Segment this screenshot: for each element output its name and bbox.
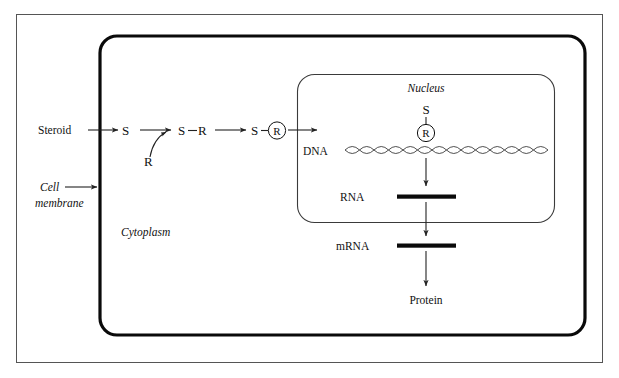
label-dna: DNA xyxy=(303,145,329,157)
symbol-s-bound: S xyxy=(178,123,185,138)
label-nucleus: Nucleus xyxy=(406,82,445,94)
symbol-r-circled: R xyxy=(273,125,281,137)
label-steroid: Steroid xyxy=(38,124,71,136)
label-mrna: mRNA xyxy=(336,240,370,252)
diagram-page: Steroid S R S R S R Cell membrane Cytopl… xyxy=(0,0,619,378)
symbol-r-free: R xyxy=(144,154,153,169)
label-cell-membrane-line1: Cell xyxy=(40,181,59,193)
outer-frame xyxy=(17,15,603,363)
nucleus-boundary xyxy=(298,75,555,223)
symbol-s-free: S xyxy=(122,123,129,138)
symbol-r-on-dna: R xyxy=(422,127,430,139)
symbol-s-on-dna: S xyxy=(422,102,429,117)
steroid-pathway-diagram: Steroid S R S R S R Cell membrane Cytopl… xyxy=(0,0,619,378)
cell-membrane-boundary xyxy=(100,36,585,335)
label-cytoplasm: Cytoplasm xyxy=(121,226,170,239)
label-protein: Protein xyxy=(409,294,442,306)
label-rna: RNA xyxy=(340,191,365,203)
mrna-bar xyxy=(397,244,456,248)
symbol-s-complex: S xyxy=(251,123,258,138)
label-cell-membrane-line2: membrane xyxy=(35,197,84,209)
rna-bar xyxy=(397,195,456,199)
symbol-r-bound: R xyxy=(198,123,207,138)
dna-strand-lower xyxy=(345,147,548,154)
